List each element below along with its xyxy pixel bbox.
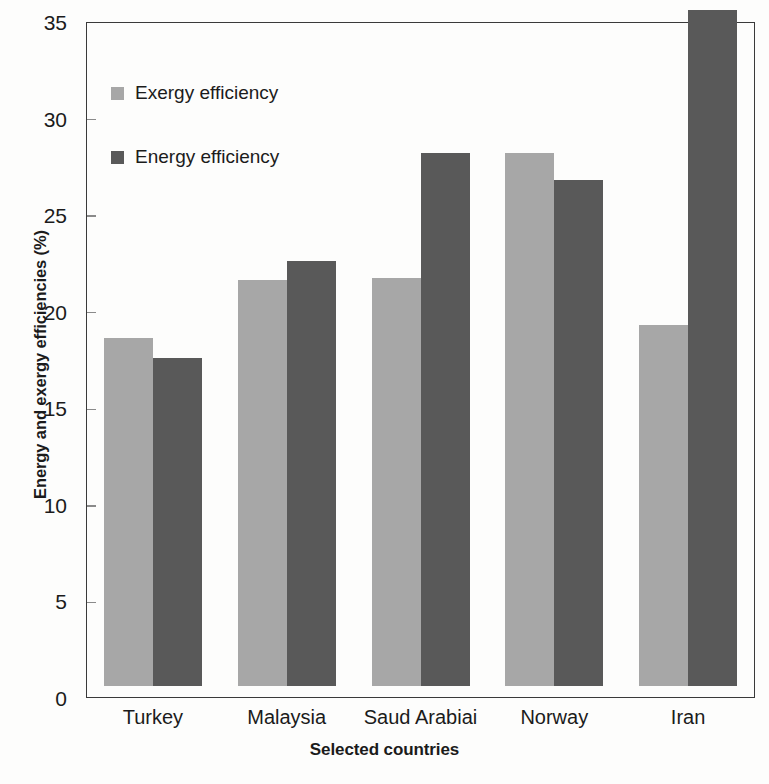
x-axis-title: Selected countries (0, 740, 769, 760)
legend-item-energy: Energy efficiency (111, 146, 279, 168)
legend-label-energy: Energy efficiency (135, 146, 279, 168)
chart-legend: Exergy efficiency Energy efficiency (111, 82, 279, 210)
y-axis-tick-mark (87, 602, 96, 603)
y-axis-tick-label: 15 (15, 398, 67, 419)
y-axis-tick-mark (87, 215, 96, 216)
y-axis-tick-label: 20 (15, 301, 67, 322)
y-axis-tick-label: 35 (15, 12, 67, 33)
legend-swatch-energy (111, 151, 124, 164)
y-axis-title: Energy and exergy efficiencies (%) (31, 185, 50, 545)
y-axis-tick-label: 30 (15, 108, 67, 129)
y-axis-tick-mark (87, 505, 96, 506)
legend-swatch-exergy (111, 87, 124, 100)
bar-chart-figure: Energy and exergy efficiencies (%) 05101… (0, 0, 769, 784)
y-axis-tick-label: 10 (15, 494, 67, 515)
legend-label-exergy: Exergy efficiency (135, 82, 278, 104)
legend-item-exergy: Exergy efficiency (111, 82, 279, 104)
x-axis-tick-label: Iran (603, 706, 769, 729)
y-axis-tick-label: 5 (15, 591, 67, 612)
y-axis-tick-mark (87, 312, 96, 313)
y-axis-tick-mark (87, 409, 96, 410)
y-axis-tick-mark (87, 119, 96, 120)
y-axis-tick-label: 25 (15, 205, 67, 226)
y-axis-tick-label: 0 (15, 688, 67, 709)
